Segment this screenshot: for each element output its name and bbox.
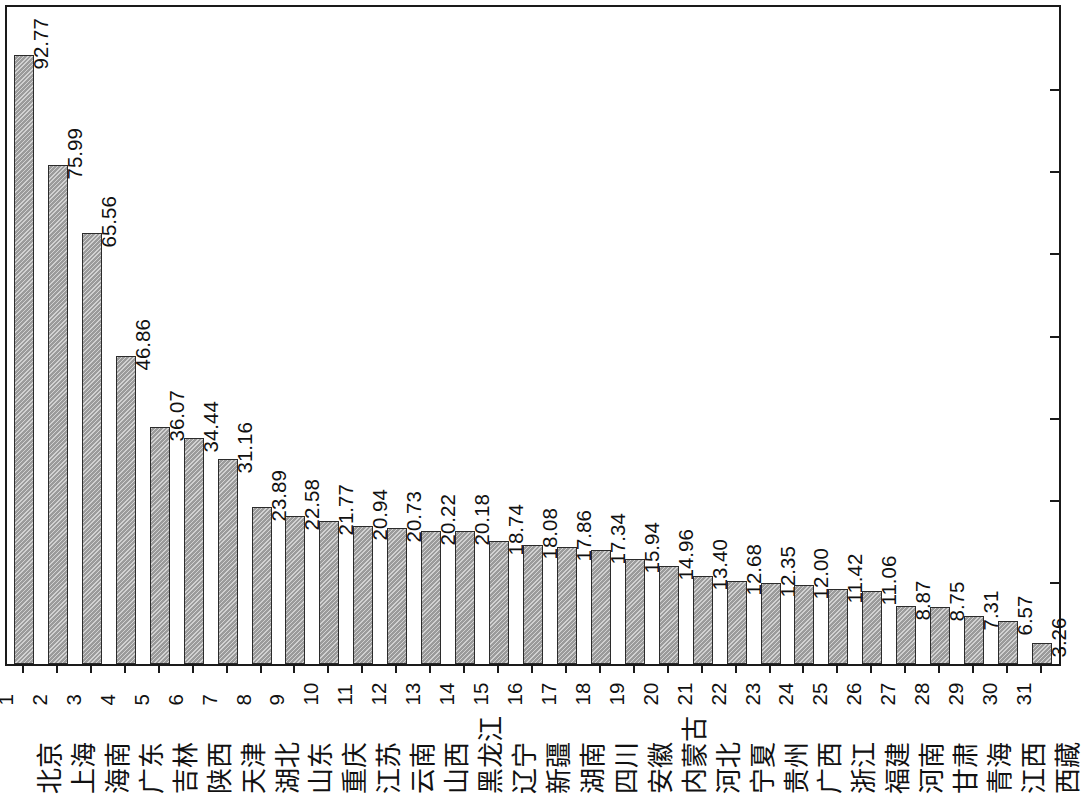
bar [455,531,475,664]
x-axis-category-label: 贵州 [784,742,810,794]
plot-area: 92.7775.9965.5646.8636.0734.4431.1623.89… [7,7,1059,664]
bar [150,427,170,664]
x-axis-category-label: 江苏 [376,742,402,794]
plot-frame: 92.7775.9965.5646.8636.0734.4431.1623.89… [5,5,1061,666]
x-axis-category-label: 青海 [987,742,1013,794]
x-axis-index-label: 21 [674,682,695,705]
bar-value-label: 17.34 [607,513,628,564]
x-axis-index-label: 13 [403,682,424,705]
x-axis-index-label: 14 [437,682,458,705]
bar [116,356,136,664]
x-axis-index-label: 9 [267,694,288,705]
x-axis-category-label: 重庆 [342,742,368,794]
bar [319,521,339,664]
x-axis-category-label: 辽宁 [512,742,538,794]
x-axis-category-label: 宁夏 [750,742,776,794]
x-axis-index-label: 6 [165,694,186,705]
x-axis-category-label: 湖北 [275,742,301,794]
x-axis-index-label: 25 [810,682,831,705]
bar-value-label: 34.44 [200,401,221,452]
x-axis-category-label: 广西 [817,742,843,794]
x-axis-index-label: 24 [776,682,797,705]
x-axis-category-label: 湖南 [580,742,606,794]
bar [625,559,645,664]
bar [184,438,204,664]
x-axis-index-label: 26 [844,682,865,705]
bar [557,547,577,664]
bar [252,507,272,664]
bar-value-label: 65.56 [98,196,119,247]
x-axis-category-label: 河北 [716,742,742,794]
x-axis-category-label: 内蒙古 [682,716,708,794]
x-axis-category-label: 山西 [444,742,470,794]
x-axis-index-label: 11 [335,684,356,705]
x-axis-index-label: 4 [97,694,118,705]
bar [489,541,509,664]
bar-value-label: 23.89 [268,470,289,521]
x-axis-index-label: 20 [640,682,661,705]
bar [353,526,373,664]
bar [421,531,441,664]
bar-value-label: 46.86 [132,319,153,370]
bar-value-label: 92.77 [30,18,51,69]
x-axis-category-label: 甘肃 [953,742,979,794]
y-axis-tick [1050,336,1059,338]
bar-value-label: 75.99 [64,128,85,179]
bar [48,165,68,664]
x-axis-index-label: 15 [471,682,492,705]
x-axis-category-label: 广东 [139,742,165,794]
y-axis-tick [1050,500,1059,502]
x-axis-category-label: 黑龙江 [478,716,504,794]
x-axis-category-label: 海南 [105,742,131,794]
x-axis-category-label: 陕西 [207,742,233,794]
x-axis-index-label: 23 [742,682,763,705]
x-axis-index-label: 2 [29,694,50,705]
y-axis-tick [1050,171,1059,173]
bar [14,55,34,664]
x-axis-category-label: 吉林 [173,742,199,794]
y-axis-tick [1050,582,1059,584]
x-axis-index-label: 31 [1014,682,1035,705]
x-axis-category-label: 四川 [614,742,640,794]
x-axis-category-label: 浙江 [851,742,877,794]
y-axis-tick [1050,418,1059,420]
bar [387,528,407,664]
x-axis-category-label: 新疆 [546,742,572,794]
x-axis-index-label: 30 [980,682,1001,705]
y-axis-tick [1050,89,1059,91]
x-axis-index-label: 7 [199,694,220,705]
bar-value-label: 31.16 [234,422,255,473]
x-axis-index-label: 8 [233,694,254,705]
x-axis-category-label: 上海 [71,742,97,794]
x-axis-category-label: 天津 [241,742,267,794]
x-axis-category-label: 山东 [308,742,334,794]
x-axis-category-label: 河南 [919,742,945,794]
x-axis-index-label: 5 [131,694,152,705]
bar-value-label: 3.26 [1049,617,1070,657]
x-axis-category-label: 西藏 [1055,742,1081,794]
x-axis-category-label: 福建 [885,742,911,794]
x-axis-index-label: 22 [708,682,729,705]
x-axis-index-label: 12 [369,682,390,705]
x-axis-index-label: 27 [878,682,899,705]
bar-value-label: 36.07 [166,390,187,441]
x-axis-index-label: 18 [572,682,593,705]
x-axis-category-labels: 北京上海海南广东吉林陕西天津湖北山东重庆江苏云南山西黑龙江辽宁新疆湖南四川安徽内… [0,708,1066,797]
bar-value-label: 20.18 [472,495,493,546]
bar-value-label: 11.06 [879,556,900,606]
x-axis-index-label: 28 [912,682,933,705]
bar [591,550,611,664]
x-axis-index-label: 17 [538,682,559,705]
bar [523,545,543,664]
bar-value-label: 6.57 [1015,595,1036,635]
y-axis-tick [1050,253,1059,255]
bar [218,459,238,664]
x-axis-category-label: 北京 [37,742,63,794]
x-axis-category-label: 云南 [410,742,436,794]
bar [82,233,102,664]
bar-value-label: 14.96 [675,529,696,580]
x-axis-index-label: 3 [63,694,84,705]
x-axis-index-labels: 1234567891011121314151617181920212223242… [0,669,1066,705]
x-axis-index-label: 19 [606,682,627,705]
